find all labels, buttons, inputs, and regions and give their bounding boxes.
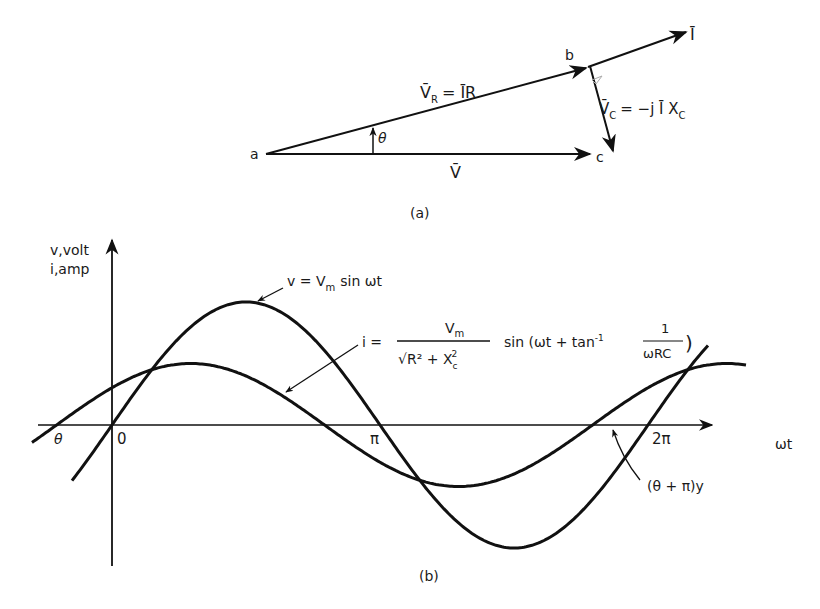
- voltage-label-leader: [258, 288, 283, 301]
- y-axis-label-amp: i,amp: [50, 261, 90, 277]
- point-a-label: a: [250, 146, 259, 162]
- vr-phasor-arrow: [266, 68, 586, 154]
- tick-theta: θ: [54, 431, 63, 447]
- waveform-plot: v,volt i,amp ωt θ 0 π 2π v = Vmsin ωt i …: [32, 240, 793, 584]
- tick-origin: 0: [117, 430, 127, 448]
- tick-pi: π: [370, 430, 379, 448]
- current-phasor-arrow: [588, 32, 686, 67]
- current-phasor-label: Ī: [690, 25, 695, 44]
- caption-a: (a): [410, 205, 430, 221]
- svg-text:): ): [685, 331, 693, 355]
- vc-label: V̄C= −j Ī XC: [599, 99, 686, 121]
- phasor-diagram: a b c Ī V̄R= ĪR V̄C= −j Ī XC V̄ θ (a): [250, 25, 695, 221]
- diagram-canvas: a b c Ī V̄R= ĪR V̄C= −j Ī XC V̄ θ (a) v,…: [0, 0, 820, 609]
- caption-b: (b): [419, 568, 439, 584]
- crossing-label: (θ + π)y: [647, 478, 704, 494]
- current-label-leader: [286, 345, 358, 392]
- v-label: V̄: [450, 163, 461, 182]
- svg-text:ωRC: ωRC: [643, 346, 671, 361]
- tick-two-pi: 2π: [652, 430, 671, 448]
- vr-label: V̄R= ĪR: [420, 83, 476, 105]
- voltage-curve-label: v = Vmsin ωt: [287, 273, 382, 293]
- current-curve-label: i = Vm √R² + Xc2 sin (ωt + tan-1 1 ωRC ): [362, 320, 693, 371]
- svg-text:i =: i =: [362, 334, 382, 350]
- y-axis-label-volt: v,volt: [50, 242, 89, 258]
- svg-text:sin (ωt + tan-1: sin (ωt + tan-1: [504, 333, 604, 350]
- svg-text:1: 1: [661, 321, 669, 336]
- theta-label: θ: [378, 130, 387, 146]
- point-c-label: c: [596, 149, 604, 165]
- svg-text:Vm: Vm: [445, 320, 464, 339]
- svg-text:√R² + Xc2: √R² + Xc2: [398, 349, 457, 371]
- x-axis-label: ωt: [775, 436, 793, 452]
- point-b-label: b: [565, 47, 574, 63]
